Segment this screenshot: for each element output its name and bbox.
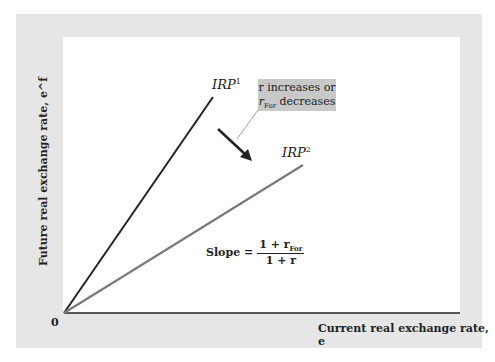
y-axis-label: Future real exchange rate, e^f <box>37 67 50 277</box>
callout-line <box>237 110 258 139</box>
shift-note-box: r increases or rFor decreases <box>258 79 336 111</box>
chart-lines <box>0 0 495 362</box>
x-axis-label: Current real exchange rate, e <box>318 322 495 348</box>
irp1-label: IRP1 <box>212 77 241 92</box>
slope-formula: Slope = 1 + rFor 1 + r <box>206 238 304 267</box>
origin-label: 0 <box>51 316 59 329</box>
irp1-line <box>64 97 213 313</box>
irp2-label: IRP2 <box>282 145 311 160</box>
